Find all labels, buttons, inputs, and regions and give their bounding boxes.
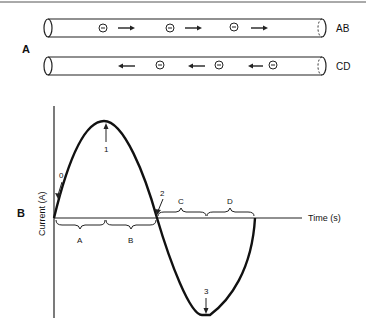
point-2-label: 2	[160, 189, 165, 198]
interval-d-label: D	[227, 197, 233, 206]
arrow-left-icon	[118, 64, 135, 69]
arrow-left-icon	[248, 64, 263, 69]
electron-icon	[230, 23, 238, 31]
interval-c-label: C	[178, 197, 184, 206]
tube-cd	[44, 57, 326, 75]
electron-icon	[156, 61, 164, 69]
arrow-down-icon	[204, 298, 209, 314]
figure: A AB CD B Time (s) Current (A) 0	[0, 0, 366, 331]
electron-icon	[166, 24, 174, 32]
brace-b	[106, 220, 156, 229]
interval-a-label: A	[77, 236, 83, 245]
x-axis-label: Time (s)	[308, 213, 341, 223]
tube-ab	[44, 19, 326, 37]
brace-d	[207, 208, 254, 216]
electron-icon	[99, 24, 107, 32]
arrow-right-icon	[118, 26, 135, 31]
y-axis-label: Current (A)	[37, 191, 47, 236]
interval-b-label: B	[128, 236, 133, 245]
arrow-left-icon	[188, 64, 205, 69]
point-3-label: 3	[204, 287, 209, 296]
arrow-up-icon	[104, 123, 109, 142]
point-1-label: 1	[104, 145, 109, 154]
tube-cd-label: CD	[336, 61, 350, 72]
arrow-right-icon	[251, 26, 268, 31]
arrow-right-icon	[185, 26, 202, 31]
brace-c	[158, 208, 206, 216]
tube-ab-label: AB	[336, 23, 350, 34]
panel-a-label: A	[22, 43, 30, 55]
brace-a	[56, 220, 105, 229]
panel-b-label: B	[17, 207, 25, 219]
electron-icon	[269, 61, 277, 69]
point-0-label: 0	[59, 171, 64, 180]
electron-icon	[215, 61, 223, 69]
